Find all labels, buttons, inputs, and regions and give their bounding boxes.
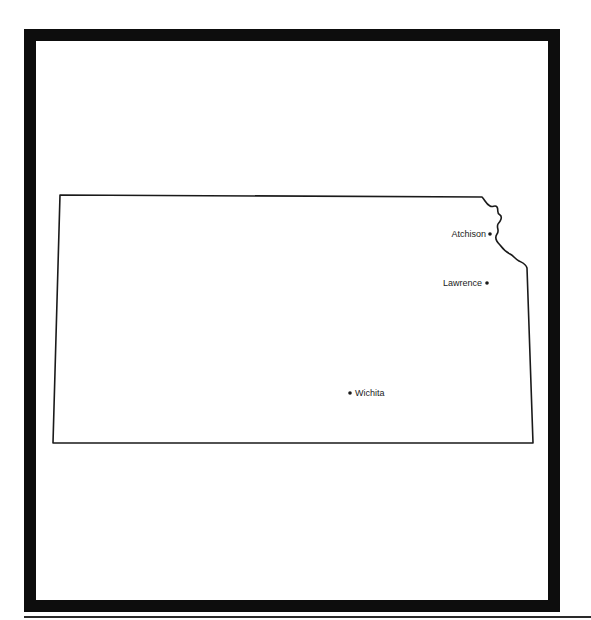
city-label-wichita: Wichita: [355, 388, 385, 398]
city-dot-atchison: [488, 232, 492, 236]
city-marker-lawrence[interactable]: Lawrence: [443, 278, 489, 288]
city-marker-wichita[interactable]: Wichita: [348, 388, 384, 398]
city-label-lawrence: Lawrence: [443, 278, 482, 288]
city-marker-atchison[interactable]: Atchison: [451, 229, 491, 239]
city-label-atchison: Atchison: [451, 229, 486, 239]
city-dot-wichita: [348, 391, 352, 395]
kansas-map: Atchison Lawrence Wichita: [0, 0, 591, 620]
city-dot-lawrence: [485, 281, 489, 285]
